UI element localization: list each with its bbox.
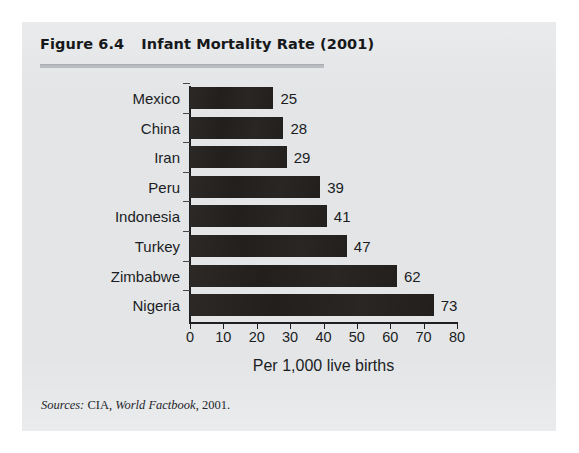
x-axis-tick-label: 80 <box>437 330 477 345</box>
bar <box>190 176 320 198</box>
y-axis-tick <box>183 231 190 232</box>
y-axis-tick <box>183 201 190 202</box>
category-label: China <box>60 121 180 136</box>
source-note: Sources: CIA, World Factbook, 2001. <box>41 398 230 413</box>
category-label: Mexico <box>60 91 180 106</box>
category-label: Iran <box>60 150 180 165</box>
bar-chart: 01020304050607080Mexico25China28Iran29Pe… <box>0 0 579 453</box>
bar <box>190 235 347 257</box>
bar-value-label: 25 <box>280 91 297 106</box>
bar-value-label: 29 <box>294 150 311 165</box>
y-axis-tick <box>183 83 190 84</box>
source-work: World Factbook <box>115 398 195 412</box>
bar <box>190 205 327 227</box>
bar-value-label: 28 <box>290 121 307 136</box>
category-label: Zimbabwe <box>60 269 180 284</box>
x-axis-title: Per 1,000 live births <box>189 357 458 375</box>
source-lead: Sources: <box>41 398 84 412</box>
y-axis-tick <box>183 113 190 114</box>
source-agency: CIA, <box>84 398 115 412</box>
figure-root: Figure 6.4Infant Mortality Rate (2001) 0… <box>0 0 579 453</box>
y-axis-tick <box>183 172 190 173</box>
bar <box>190 294 434 316</box>
y-axis-tick <box>183 290 190 291</box>
bar <box>190 265 397 287</box>
bar-value-label: 47 <box>354 239 371 254</box>
bar <box>190 146 287 168</box>
bar-value-label: 41 <box>334 209 351 224</box>
category-label: Peru <box>60 180 180 195</box>
y-axis-tick <box>183 142 190 143</box>
category-label: Turkey <box>60 239 180 254</box>
category-label: Indonesia <box>60 209 180 224</box>
bar-value-label: 39 <box>327 180 344 195</box>
bar <box>190 117 283 139</box>
source-year: , 2001. <box>196 398 230 412</box>
bar-value-label: 62 <box>404 269 421 284</box>
bar <box>190 87 273 109</box>
y-axis-tick <box>183 261 190 262</box>
category-label: Nigeria <box>60 298 180 313</box>
bar-value-label: 73 <box>441 298 458 313</box>
